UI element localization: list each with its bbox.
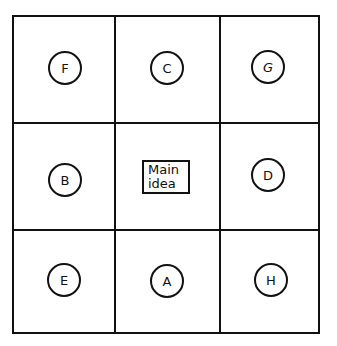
grid-divider-vertical-1: [114, 15, 116, 334]
node-e: E: [47, 263, 81, 297]
grid-divider-horizontal-1: [12, 122, 320, 124]
main-idea-line2: idea: [148, 177, 188, 191]
grid-divider-vertical-2: [219, 15, 221, 334]
node-h: H: [254, 263, 288, 297]
main-idea-line1: Main: [148, 163, 188, 177]
main-idea-box: Main idea: [142, 160, 190, 194]
node-d: D: [251, 158, 285, 192]
grid-divider-horizontal-2: [12, 229, 320, 231]
node-a: A: [150, 264, 184, 298]
node-c: C: [150, 51, 184, 85]
node-f: F: [48, 51, 82, 85]
node-b: B: [48, 163, 82, 197]
node-g: G: [251, 50, 285, 84]
